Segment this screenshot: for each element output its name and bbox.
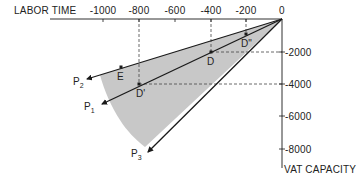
point-d-marker: [210, 51, 213, 54]
point-d2-marker: [245, 33, 248, 36]
production-cone-diagram: LABOR TIME VAT CAPACITY -1000 -800 -600 …: [0, 0, 361, 177]
point-d-label: D: [207, 56, 214, 67]
x-tick-label: -200: [236, 5, 257, 16]
ray-p3-label: P3: [131, 148, 142, 161]
x-tick-label: 0: [279, 5, 285, 16]
point-e-marker: [120, 66, 123, 69]
y-axis-label: VAT CAPACITY: [284, 164, 356, 175]
point-d1-label: D': [136, 88, 145, 99]
point-e-label: E: [117, 71, 124, 82]
feasible-region-shade: [100, 19, 282, 147]
x-ticks: [103, 19, 246, 22]
point-d2-label: D": [241, 38, 252, 49]
point-d1-marker: [138, 83, 141, 86]
x-tick-label: -600: [165, 5, 186, 16]
y-tick-label: -6000: [285, 111, 312, 122]
y-tick-label: -8000: [285, 144, 312, 155]
x-axis-label: LABOR TIME: [14, 5, 77, 16]
ray-p1-label: P1: [84, 101, 95, 114]
x-tick-label: -400: [201, 5, 222, 16]
ray-p2-label: P2: [73, 76, 84, 89]
x-tick-label: -800: [129, 5, 150, 16]
y-tick-label: -4000: [285, 79, 312, 90]
x-tick-label: -1000: [90, 5, 117, 16]
y-tick-label: -2000: [285, 47, 312, 58]
